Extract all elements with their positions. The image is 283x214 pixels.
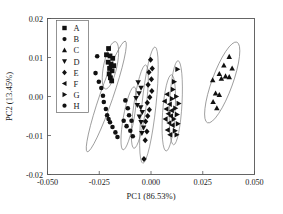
data-point-d <box>135 80 141 85</box>
data-point-e <box>143 137 148 143</box>
data-point-h <box>126 106 131 111</box>
data-point-b <box>97 79 102 84</box>
data-point-d <box>137 115 143 120</box>
legend-label-e: E <box>74 69 79 78</box>
chart-canvas: -0.050-0.0250.0000.0250.0500.020.010.00-… <box>0 0 283 214</box>
data-point-b <box>102 100 107 105</box>
data-point-g <box>173 105 178 111</box>
data-point-e <box>144 129 149 135</box>
y-tick-label: 0.00 <box>29 93 43 102</box>
legend-label-c: C <box>74 46 80 55</box>
data-point-b <box>101 93 106 98</box>
data-point-e <box>150 65 155 71</box>
data-point-e <box>145 100 150 106</box>
data-point-h <box>127 113 132 118</box>
y-axis-title: PC2 (13.45%) <box>4 72 14 121</box>
data-point-h <box>128 129 133 134</box>
x-tick-label: 0.000 <box>142 178 160 187</box>
x-axis-title: PC1 (86.53%) <box>126 191 175 201</box>
data-point-h <box>129 118 134 123</box>
legend-label-h: H <box>74 102 80 111</box>
y-tick-label: -0.01 <box>26 132 43 141</box>
legend-label-g: G <box>74 91 80 100</box>
data-point-a <box>106 46 111 51</box>
data-point-g <box>177 101 182 107</box>
x-tick-label: 0.050 <box>245 178 263 187</box>
legend-marker-a <box>62 26 66 30</box>
data-point-b <box>115 135 120 140</box>
legend: ABCDEFGH <box>57 21 89 113</box>
x-tick-label: -0.025 <box>89 178 110 187</box>
data-point-d <box>136 91 142 96</box>
data-point-b <box>99 86 104 91</box>
data-point-c <box>229 66 235 71</box>
data-point-c <box>221 62 227 67</box>
data-point-e <box>149 88 154 94</box>
data-point-g <box>175 66 180 72</box>
legend-marker-h <box>62 104 66 108</box>
data-point-d <box>138 86 144 91</box>
data-point-d <box>138 105 144 110</box>
data-point-c <box>214 105 220 110</box>
data-point-a <box>109 79 114 84</box>
data-point-c <box>217 71 223 76</box>
data-point-h <box>131 134 136 139</box>
data-point-d <box>133 96 139 101</box>
legend-label-a: A <box>74 24 80 33</box>
legend-label-f: F <box>74 80 79 89</box>
confidence-ellipse-c <box>198 39 247 127</box>
data-point-g <box>174 94 179 100</box>
data-point-e <box>147 94 152 100</box>
y-tick-label: 0.01 <box>29 54 43 63</box>
data-point-b <box>113 130 118 135</box>
data-point-e <box>145 82 150 88</box>
data-point-f <box>163 116 168 122</box>
data-point-b <box>110 125 115 130</box>
data-point-e <box>145 113 150 119</box>
data-point-f <box>163 106 168 112</box>
data-point-a <box>110 56 115 61</box>
data-point-c <box>210 99 216 104</box>
plot-points <box>93 46 235 162</box>
data-point-f <box>165 127 170 133</box>
y-tick-label: -0.02 <box>26 171 43 180</box>
data-point-c <box>226 54 232 59</box>
data-point-c <box>213 91 219 96</box>
data-point-b <box>95 54 100 59</box>
legend-label-b: B <box>74 35 80 44</box>
data-point-c <box>210 77 216 82</box>
data-point-e <box>149 76 154 82</box>
legend-label-d: D <box>74 58 80 67</box>
data-point-b <box>104 107 109 112</box>
y-tick-label: 0.02 <box>29 15 43 24</box>
pca-scatter-plot-figure: -0.050-0.0250.0000.0250.0500.020.010.00-… <box>0 0 283 214</box>
confidence-ellipse-e <box>136 46 162 164</box>
data-point-h <box>123 98 128 103</box>
data-point-h <box>121 118 126 123</box>
data-point-b <box>108 120 113 125</box>
data-point-h <box>124 124 129 129</box>
data-point-b <box>105 113 110 118</box>
confidence-ellipse-h <box>118 86 140 151</box>
legend-marker-b <box>62 37 66 41</box>
legend-box <box>57 21 89 113</box>
data-point-b <box>93 71 98 76</box>
data-point-g <box>175 112 180 118</box>
data-point-a <box>111 63 116 68</box>
data-point-f <box>162 98 167 104</box>
data-point-d <box>140 110 146 115</box>
data-point-e <box>147 107 152 113</box>
x-tick-label: 0.025 <box>194 178 212 187</box>
data-point-e <box>141 156 146 162</box>
